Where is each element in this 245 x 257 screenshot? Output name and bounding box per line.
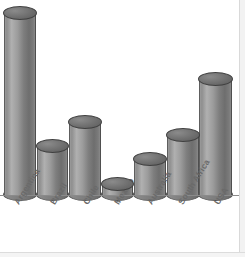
bar-body — [199, 78, 232, 196]
bar-top-cap — [133, 152, 167, 166]
x-axis-labels: Argentina Brazil Chile Mexico Australia … — [0, 193, 245, 253]
bar-chile — [69, 115, 101, 196]
bar-top-cap — [68, 115, 102, 129]
bar-top-cap — [166, 128, 200, 142]
cylinder-bar-chart: Argentina Brazil Chile Mexico Australia … — [0, 0, 245, 257]
bar-top-cap — [198, 72, 233, 86]
page-edge-right — [239, 0, 245, 257]
bar-top-cap — [101, 177, 134, 191]
page-edge-bottom — [0, 252, 245, 257]
bar-argentina — [4, 6, 36, 196]
bar-top-cap — [3, 6, 37, 20]
bar-usa — [199, 72, 232, 196]
bar-top-cap — [36, 139, 69, 153]
